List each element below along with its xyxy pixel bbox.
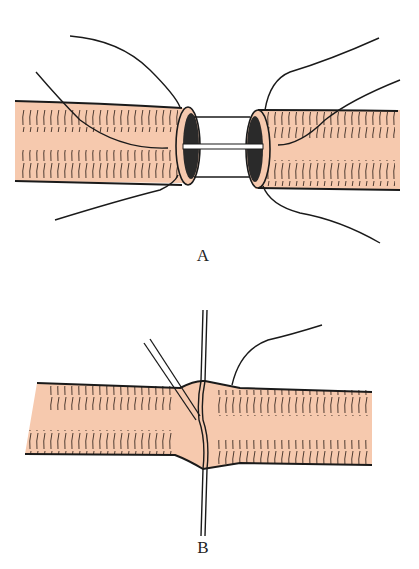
panel-label-b: B <box>188 538 218 558</box>
anastomosis-diagram <box>0 0 419 569</box>
panel-label-a: A <box>188 246 218 266</box>
left-vessel-segment <box>15 101 200 185</box>
panel-a <box>15 36 400 243</box>
panel-b <box>25 310 372 536</box>
